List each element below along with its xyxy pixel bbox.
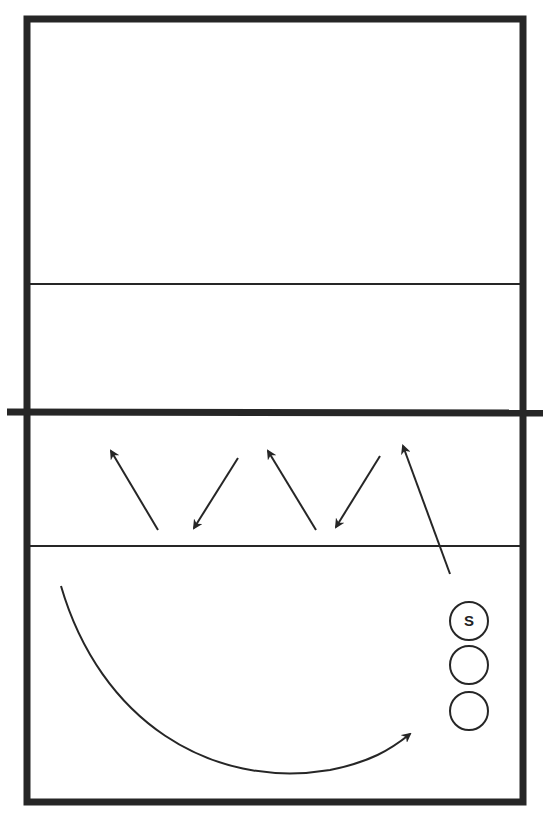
movement-arrow — [268, 451, 316, 530]
player-label: S — [449, 612, 489, 629]
player — [450, 646, 488, 684]
movement-arrow — [403, 446, 450, 574]
player — [450, 692, 488, 730]
volleyball-court-diagram — [0, 0, 545, 824]
movement-arrow — [111, 451, 158, 530]
movement-arrow — [194, 458, 238, 528]
movement-arrow — [336, 456, 380, 527]
net — [7, 412, 543, 413]
curved-arrow — [61, 586, 410, 773]
